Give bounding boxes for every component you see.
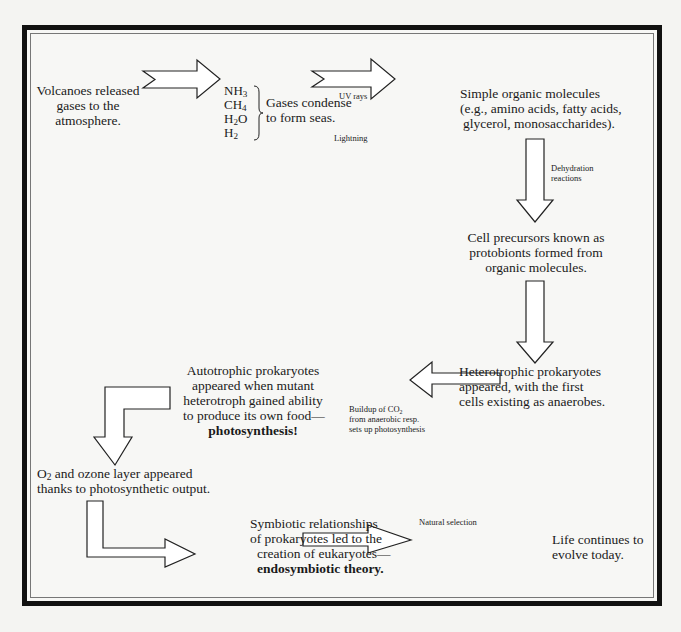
label-line: Buildup of CO2 [349,404,425,414]
node-text-line: heterotroph gained ability [183,393,323,408]
label-uv-rays: UV rays [339,91,367,101]
label-line: reactions [551,173,594,183]
node-text-line: glycerol, monosaccharides). [460,116,622,131]
arrow-autotrophic-to-oxygen [94,387,170,465]
node-text-line: Life continues to [552,532,643,547]
node-text-line: creation of eukaryotes— [250,546,390,561]
node-life-continues: Life continues to evolve today. [552,532,643,562]
node-text-line: Volcanoes released [33,83,143,98]
node-heterotrophic-prokaryotes: Heterotrophic prokaryotes appeared, with… [459,364,605,409]
node-text-line: appeared, with the first [459,379,605,394]
node-autotrophic-prokaryotes: Autotrophic prokaryotes appeared when mu… [183,363,323,438]
node-text-line: organic molecules. [460,260,612,275]
node-text-line: Cell precursors known as [460,230,612,245]
node-text-line: Heterotrophic prokaryotes [459,364,605,379]
node-text-line: evolve today. [552,547,643,562]
label-dehydration-reactions: Dehydration reactions [551,163,594,183]
gas-h2o: H2O [224,112,247,126]
node-text-line: to produce its own food— [183,408,323,423]
keyword-photosynthesis: photosynthesis! [183,423,323,438]
arrow-volcanoes-to-gases [143,60,220,98]
node-gas-list: NH3 CH4 H2O H2 [224,84,247,140]
arrow-protobionts-to-heterotrophic [517,281,553,363]
node-simple-organic-molecules: Simple organic molecules (e.g., amino ac… [460,86,622,131]
node-text-line: (e.g., amino acids, fatty acids, [460,101,622,116]
label-co2-buildup: Buildup of CO2 from anaerobic resp. sets… [349,404,425,434]
label-natural-selection: Natural selection [419,517,477,527]
label-lightning: Lightning [334,133,368,143]
node-text-line: thanks to photosynthetic output. [37,481,210,496]
label-line: from anaerobic resp. [349,414,425,424]
node-text-line: appeared when mutant [183,378,323,393]
node-text-line: atmosphere. [33,113,143,128]
gas-h2: H2 [224,126,247,140]
node-volcanoes: Volcanoes released gases to the atmosphe… [33,83,143,128]
node-protobionts: Cell precursors known as protobionts for… [460,230,612,275]
label-line: Dehydration [551,163,594,173]
node-text-line: to form seas. [266,110,352,125]
arrow-oxygen-to-symbiotic [87,501,195,567]
node-text-line: Simple organic molecules [460,86,622,101]
node-text-line: Autotrophic prokaryotes [183,363,323,378]
node-text-line: of prokaryotes led to the [250,531,390,546]
node-oxygen-ozone: O2 and ozone layer appeared thanks to ph… [37,466,210,496]
node-text-line: O2 and ozone layer appeared [37,466,210,481]
node-symbiotic-relationships: Symbiotic relationships of prokaryotes l… [250,516,390,576]
keyword-endosymbiotic-theory: endosymbiotic theory. [250,561,390,576]
arrow-organic-to-protobionts [517,139,553,222]
brace-icon [252,84,266,142]
gas-ch4: CH4 [224,98,247,112]
label-line: sets up photosynthesis [349,424,425,434]
node-text-line: gases to the [33,98,143,113]
node-text-line: cells existing as anaerobes. [459,394,605,409]
node-text-line: protobionts formed from [460,245,612,260]
gas-nh3: NH3 [224,84,247,98]
node-text-line: Symbiotic relationships [250,516,390,531]
